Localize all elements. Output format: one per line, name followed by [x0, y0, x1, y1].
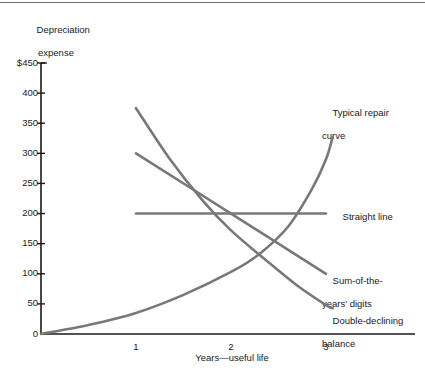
- series-line-0: [41, 137, 333, 334]
- series-line-3: [136, 108, 333, 308]
- chart-figure: Depreciation expense $450 400 350 300 25…: [0, 0, 425, 375]
- plot-area: [0, 0, 425, 375]
- axes: [37, 63, 415, 334]
- data-series: [41, 108, 333, 334]
